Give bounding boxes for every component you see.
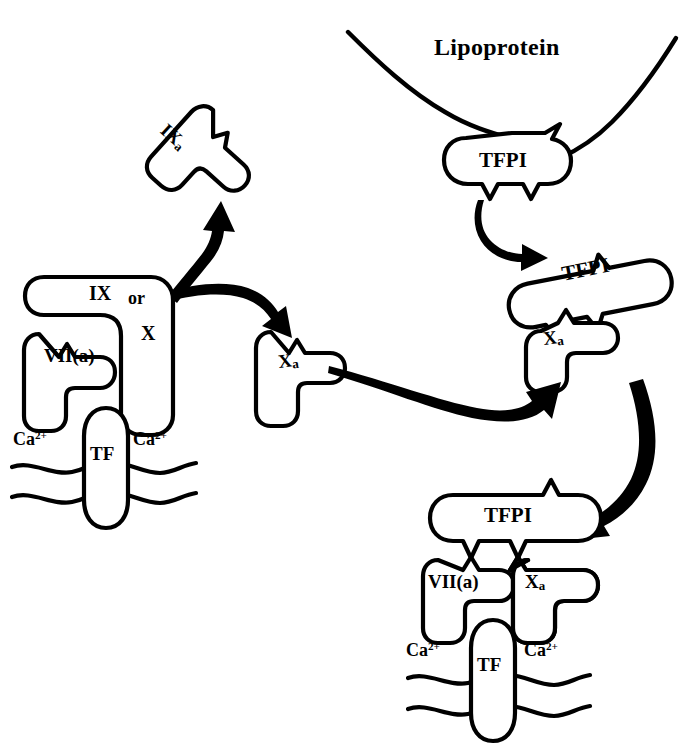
ca-text: Ca (406, 640, 428, 660)
free-xa-label: Xa (277, 350, 300, 374)
bottom-calcium-right-label: Ca2+ (524, 641, 558, 659)
xa-subscript: a (539, 578, 545, 593)
tfpi-bound-xa-label: Xa (542, 327, 565, 351)
bottom-viia-label: VII(a) (428, 572, 479, 591)
ca-charge: 2+ (546, 640, 558, 652)
lipoprotein-label: Lipoprotein (434, 35, 560, 59)
tfpi-label-lipoprotein: TFPI (479, 150, 527, 171)
free-ixa-shape (141, 100, 268, 227)
ca-charge: 2+ (35, 429, 47, 441)
xa-roman: X (542, 326, 558, 349)
bottom-xa-shape (510, 557, 598, 643)
tfpi-label-quaternary: TFPI (484, 505, 532, 526)
free-xa-shape (256, 332, 345, 426)
arrow-to-xa (165, 284, 292, 338)
xa-roman: X (277, 349, 293, 372)
diagram-canvas: Lipoprotein TFPI TFPI TFPI IXa Xa Xa IX … (0, 0, 693, 748)
ca-charge: 2+ (155, 429, 167, 441)
arrow-tfpi-release (475, 200, 548, 271)
bottom-tf-label: TF (477, 655, 501, 674)
left-calcium-right-label: Ca2+ (133, 430, 167, 448)
left-tf-label: TF (90, 444, 114, 463)
pathway-svg (0, 0, 693, 748)
bottom-tf-shape (471, 620, 515, 741)
ca-text: Ca (13, 429, 35, 449)
left-viia-label: VII(a) (44, 346, 95, 365)
left-calcium-left-label: Ca2+ (13, 430, 47, 448)
bottom-calcium-left-label: Ca2+ (406, 641, 440, 659)
substrate-or-label: or (128, 289, 145, 307)
ca-text: Ca (133, 429, 155, 449)
xa-roman: X (525, 571, 539, 592)
substrate-x-label: X (141, 323, 155, 343)
ca-charge: 2+ (428, 640, 440, 652)
left-tf-shape (84, 408, 128, 528)
bottom-xa-label: Xa (525, 572, 545, 593)
ca-text: Ca (524, 640, 546, 660)
substrate-ix-label: IX (89, 283, 111, 303)
